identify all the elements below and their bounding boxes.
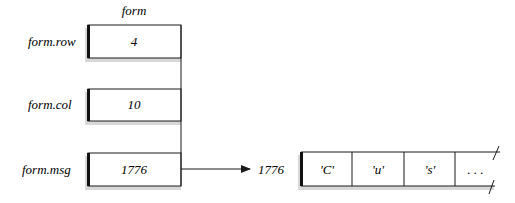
char-cell-ellipsis: . . .: [467, 162, 483, 177]
field-col-label: form.col: [28, 97, 72, 112]
field-row-label: form.row: [28, 34, 76, 49]
field-col: form.col 10: [28, 89, 181, 125]
char-cell-2: 's': [425, 162, 436, 177]
char-cell-1: 'u': [372, 162, 384, 177]
field-row-edge: [87, 25, 90, 58]
field-msg-label: form.msg: [22, 162, 71, 177]
field-msg-value: 1776: [121, 162, 148, 177]
char-cell-0: 'C': [320, 162, 334, 177]
target-address-label: 1776: [258, 162, 285, 177]
field-msg: form.msg 1776: [22, 153, 181, 190]
field-msg-edge: [87, 153, 90, 186]
struct-memory-diagram: form form.row 4 form.col 10 form.msg 177…: [0, 0, 515, 203]
field-row: form.row 4: [28, 25, 181, 62]
char-array: 'C' 'u' 's' . . .: [298, 146, 500, 194]
char-array-left-edge: [300, 152, 303, 186]
struct-name-label: form: [122, 3, 147, 18]
field-col-value: 10: [128, 97, 142, 112]
field-row-value: 4: [131, 34, 138, 49]
field-col-edge: [87, 89, 90, 121]
